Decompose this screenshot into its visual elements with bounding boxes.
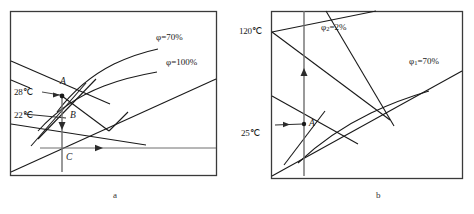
panel-a: φ=70% φ=100% 28℃ 22℃ A B C a <box>0 0 237 185</box>
phi-1-subscript: 1 <box>414 59 417 66</box>
panel-a-frame <box>11 12 217 176</box>
phi-1-label: φ1=70% <box>409 56 439 66</box>
panel-b-frame <box>272 12 463 179</box>
point-A-label: A <box>309 118 315 128</box>
panel-b: 120℃ 25℃ φ2=2% φ1=70% A b <box>237 0 474 185</box>
point-B-label: B <box>70 110 76 120</box>
point-A-marker <box>302 122 306 126</box>
temp-25-label: 25℃ <box>241 128 259 138</box>
panel-b-caption: b <box>376 190 381 200</box>
phi-100-label: φ=100% <box>166 57 197 67</box>
figure-root: φ=70% φ=100% 28℃ 22℃ A B C a <box>0 0 474 214</box>
phi-70-label: φ=70% <box>156 32 183 42</box>
panel-b-drawing <box>237 0 474 185</box>
temp-120-label: 120℃ <box>239 26 262 36</box>
panel-a-caption: a <box>113 190 117 200</box>
temp-28-label: 28℃ <box>14 87 32 97</box>
point-C-label: C <box>66 152 72 162</box>
panel-a-drawing <box>0 0 237 185</box>
temp-22-label: 22℃ <box>14 110 32 120</box>
phi-2-label: φ2=2% <box>321 22 347 32</box>
point-A-label: A <box>60 76 66 86</box>
phi-2-subscript: 2 <box>326 25 329 32</box>
point-A-marker <box>60 94 65 99</box>
